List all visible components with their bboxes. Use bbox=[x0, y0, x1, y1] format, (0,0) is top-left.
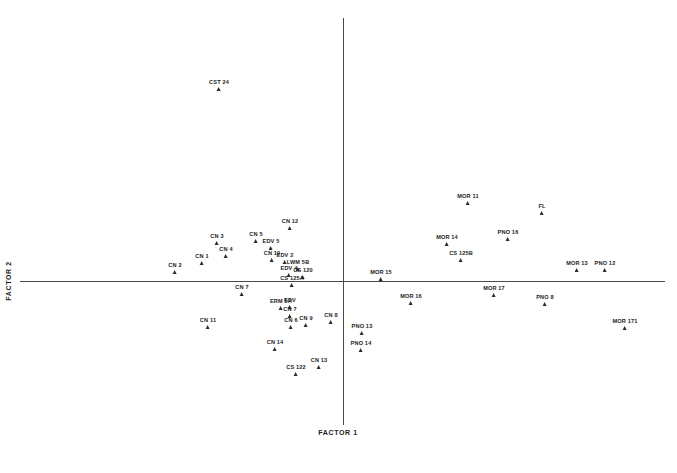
data-point-marker bbox=[304, 323, 308, 327]
data-point-label: MOR 11 bbox=[457, 194, 478, 200]
data-point-marker bbox=[317, 365, 321, 369]
data-point-marker bbox=[270, 258, 274, 262]
data-point-label: CS 125B bbox=[449, 251, 473, 257]
data-point-label: CS 120 bbox=[293, 268, 313, 274]
data-point-marker bbox=[540, 211, 544, 215]
data-point-label: CN 8 bbox=[324, 313, 337, 319]
data-point-marker bbox=[269, 246, 273, 250]
x-axis-title: FACTOR 1 bbox=[318, 429, 357, 436]
data-point-label: PNO 8 bbox=[536, 295, 554, 301]
data-point-label: CN 11 bbox=[200, 318, 216, 324]
data-point-marker bbox=[294, 372, 298, 376]
data-point-marker bbox=[466, 201, 470, 205]
data-point-marker bbox=[279, 306, 283, 310]
data-point-marker bbox=[206, 325, 210, 329]
data-point-marker bbox=[409, 301, 413, 305]
data-point-label: MOR 16 bbox=[400, 294, 422, 300]
data-point-marker bbox=[173, 270, 177, 274]
data-point-label: PNO 13 bbox=[352, 324, 373, 330]
scatter-plot-canvas: FACTOR 1 FACTOR 2 CST 24CN 2CN 1CN 4CN 3… bbox=[0, 0, 677, 473]
data-point-marker bbox=[215, 241, 219, 245]
data-point-label: CN 3 bbox=[210, 234, 223, 240]
data-point-marker bbox=[224, 254, 228, 258]
data-point-marker bbox=[360, 331, 364, 335]
data-point-label: CN 14 bbox=[267, 340, 284, 346]
data-point-marker bbox=[543, 302, 547, 306]
data-point-marker bbox=[329, 320, 333, 324]
data-point-marker bbox=[273, 347, 277, 351]
data-point-marker bbox=[379, 277, 383, 281]
data-point-label: MOR 13 bbox=[566, 261, 588, 267]
data-point-marker bbox=[603, 268, 607, 272]
data-point-label: CN 9 bbox=[299, 316, 312, 322]
data-point-label: CN 2 bbox=[168, 263, 181, 269]
data-point-marker bbox=[492, 293, 496, 297]
data-point-label: EDV 5 bbox=[263, 239, 280, 245]
data-point-label: PNO 16 bbox=[498, 230, 519, 236]
data-point-label: MOR 15 bbox=[370, 270, 392, 276]
data-point-marker bbox=[254, 239, 258, 243]
data-point-label: MOR 171 bbox=[613, 319, 638, 325]
data-point-label: EDV bbox=[284, 298, 296, 304]
data-point-label: PNO 12 bbox=[595, 261, 616, 267]
y-axis-line bbox=[343, 18, 344, 425]
data-point-label: CN 7 bbox=[283, 307, 296, 313]
data-point-label: CN 7 bbox=[235, 285, 248, 291]
data-point-label: CN 12 bbox=[282, 219, 299, 225]
data-point-label: MOR 17 bbox=[483, 286, 505, 292]
data-point-label: CN 6 bbox=[284, 318, 297, 324]
data-point-marker bbox=[200, 261, 204, 265]
data-point-label: CS 125A bbox=[280, 276, 304, 282]
data-point-marker bbox=[288, 226, 292, 230]
data-point-marker bbox=[290, 283, 294, 287]
data-point-label: CN 5 bbox=[249, 232, 262, 238]
data-point-marker bbox=[359, 348, 363, 352]
data-point-marker bbox=[217, 87, 221, 91]
data-point-marker bbox=[445, 242, 449, 246]
data-point-label: CS 122 bbox=[286, 365, 306, 371]
data-point-label: MOR 14 bbox=[436, 235, 458, 241]
data-point-marker bbox=[240, 292, 244, 296]
y-axis-title: FACTOR 2 bbox=[5, 261, 12, 300]
data-point-label: CST 24 bbox=[209, 80, 229, 86]
data-point-marker bbox=[289, 325, 293, 329]
data-point-label: PNO 14 bbox=[351, 341, 372, 347]
data-point-label: CN 4 bbox=[219, 247, 232, 253]
data-point-marker bbox=[575, 268, 579, 272]
data-point-marker bbox=[623, 326, 627, 330]
data-point-label: CN 1 bbox=[195, 254, 208, 260]
data-point-marker bbox=[459, 258, 463, 262]
data-point-label: CN 13 bbox=[311, 358, 328, 364]
data-point-label: FL bbox=[538, 204, 545, 210]
data-point-label: EDV 2 bbox=[277, 253, 294, 259]
data-point-marker bbox=[506, 237, 510, 241]
